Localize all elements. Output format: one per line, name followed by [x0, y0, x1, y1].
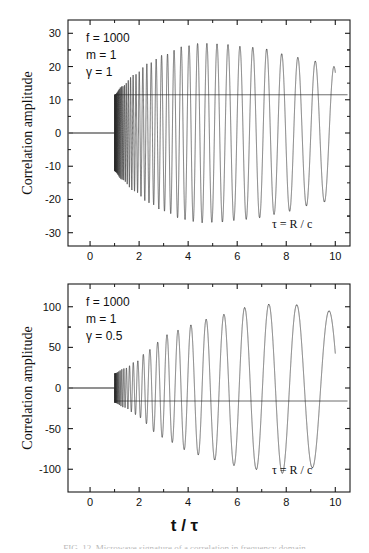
y-tick-label: 100: [43, 301, 61, 313]
x-tick-label: 6: [234, 250, 240, 262]
figure-root: 0246810-30-20-100102030f = 1000m = 1γ = …: [0, 0, 369, 553]
y-tick-label: 10: [49, 94, 61, 106]
x-tick-label: 10: [329, 496, 341, 508]
y-tick-label: 0: [55, 382, 61, 394]
plot-area-top: 0246810-30-20-100102030f = 1000m = 1γ = …: [0, 0, 369, 272]
y-tick-label: 20: [49, 61, 61, 73]
x-tick-label: 0: [87, 250, 93, 262]
y-tick-label: -100: [39, 463, 61, 475]
y-tick-label: 0: [55, 127, 61, 139]
x-tick-label: 6: [234, 496, 240, 508]
x-tick-label: 4: [185, 250, 191, 262]
annotation-gamma: γ = 1: [86, 65, 113, 79]
y-tick-label: -30: [45, 227, 61, 239]
annotation-f: f = 1000: [86, 295, 130, 309]
chart-panel-bottom: 0246810-100-50050100f = 1000m = 1γ = 0.5…: [0, 272, 369, 528]
annotation-tau: τ = R / c: [272, 217, 312, 231]
x-tick-label: 0: [87, 496, 93, 508]
x-tick-label: 10: [329, 250, 341, 262]
annotation-tau: τ = R / c: [272, 463, 312, 477]
caption-clip-mask: [0, 549, 369, 553]
annotation-f: f = 1000: [86, 31, 130, 45]
chart-panel-top: 0246810-30-20-100102030f = 1000m = 1γ = …: [0, 0, 369, 272]
correlation-curve: [115, 43, 336, 222]
x-tick-label: 8: [283, 250, 289, 262]
annotation-m: m = 1: [86, 48, 117, 62]
y-tick-label: -20: [45, 193, 61, 205]
y-tick-label: 50: [49, 341, 61, 353]
x-tick-label: 2: [136, 250, 142, 262]
x-tick-label: 4: [185, 496, 191, 508]
annotation-gamma: γ = 0.5: [86, 329, 123, 343]
plot-area-bottom: 0246810-100-50050100f = 1000m = 1γ = 0.5…: [0, 272, 369, 528]
y-tick-label: -50: [45, 423, 61, 435]
y-tick-label: -10: [45, 160, 61, 172]
x-axis-label: t / τ: [0, 516, 369, 536]
x-tick-label: 8: [283, 496, 289, 508]
correlation-curve: [115, 304, 336, 473]
annotation-m: m = 1: [86, 312, 117, 326]
y-axis-label: Correlation amplitude: [20, 71, 35, 194]
y-tick-label: 30: [49, 27, 61, 39]
y-axis-label: Correlation amplitude: [20, 326, 35, 449]
x-tick-label: 2: [136, 496, 142, 508]
